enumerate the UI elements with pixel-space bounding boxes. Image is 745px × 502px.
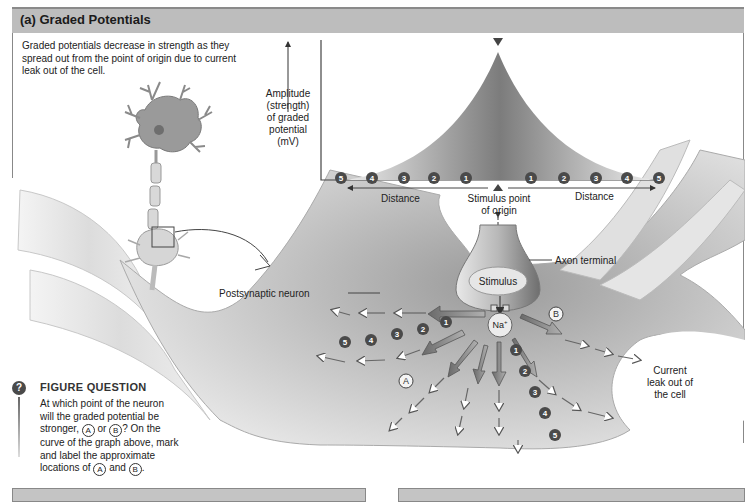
svg-text:2: 2 [432,174,437,183]
svg-text:4: 4 [369,336,374,345]
svg-text:2: 2 [523,367,528,376]
svg-text:4: 4 [370,174,375,183]
svg-text:B: B [553,309,559,319]
potential-curve [345,52,655,180]
svg-text:3: 3 [402,174,407,183]
option-b-badge: B [129,463,142,476]
svg-text:1: 1 [464,174,469,183]
y-axis-label: Amplitude (strength) of graded potential… [254,88,322,148]
next-panel-header-right [398,488,745,502]
question-icon: ? [12,381,26,395]
postsynaptic-neuron-label: Postsynaptic neuron [219,288,310,299]
figure-question-title: FIGURE QUESTION [40,381,147,393]
amplitude-graph [288,38,660,191]
question-rule [18,397,20,457]
channel-icon-right [503,305,509,311]
svg-text:4: 4 [625,174,630,183]
svg-text:1: 1 [444,318,449,327]
svg-text:3: 3 [395,330,400,339]
current-leak-label: Current leak out of the cell [640,365,700,401]
option-a-badge: A [82,424,95,437]
figure-question-body: At which point of the neuron will the gr… [40,398,190,476]
svg-text:3: 3 [533,388,538,397]
svg-text:5: 5 [339,174,344,183]
intro-text: Graded potentials decrease in strength a… [22,40,252,78]
origin-label: Stimulus point of origin [460,193,538,217]
svg-text:1: 1 [514,346,519,355]
x-left-label: Distance [381,193,420,204]
next-panel-header-left [12,488,366,502]
option-a-badge: A [93,463,106,476]
peak-marker-icon [493,38,503,46]
small-neuron-icon [125,82,270,290]
channel-icon-left [491,305,497,311]
option-b-badge: B [109,424,122,437]
svg-text:A: A [403,376,409,386]
svg-text:5: 5 [553,431,558,440]
sodium-label: Na+ [488,319,512,330]
axon-terminal-label: Axon terminal [555,255,616,266]
stimulus-label: Stimulus [472,276,524,287]
svg-text:5: 5 [657,174,662,183]
svg-text:1: 1 [529,174,534,183]
svg-text:3: 3 [594,174,599,183]
svg-text:2: 2 [562,174,567,183]
svg-text:2: 2 [421,325,426,334]
svg-text:4: 4 [543,409,548,418]
origin-marker-icon [493,184,503,191]
svg-text:5: 5 [343,338,348,347]
x-right-label: Distance [575,191,614,202]
